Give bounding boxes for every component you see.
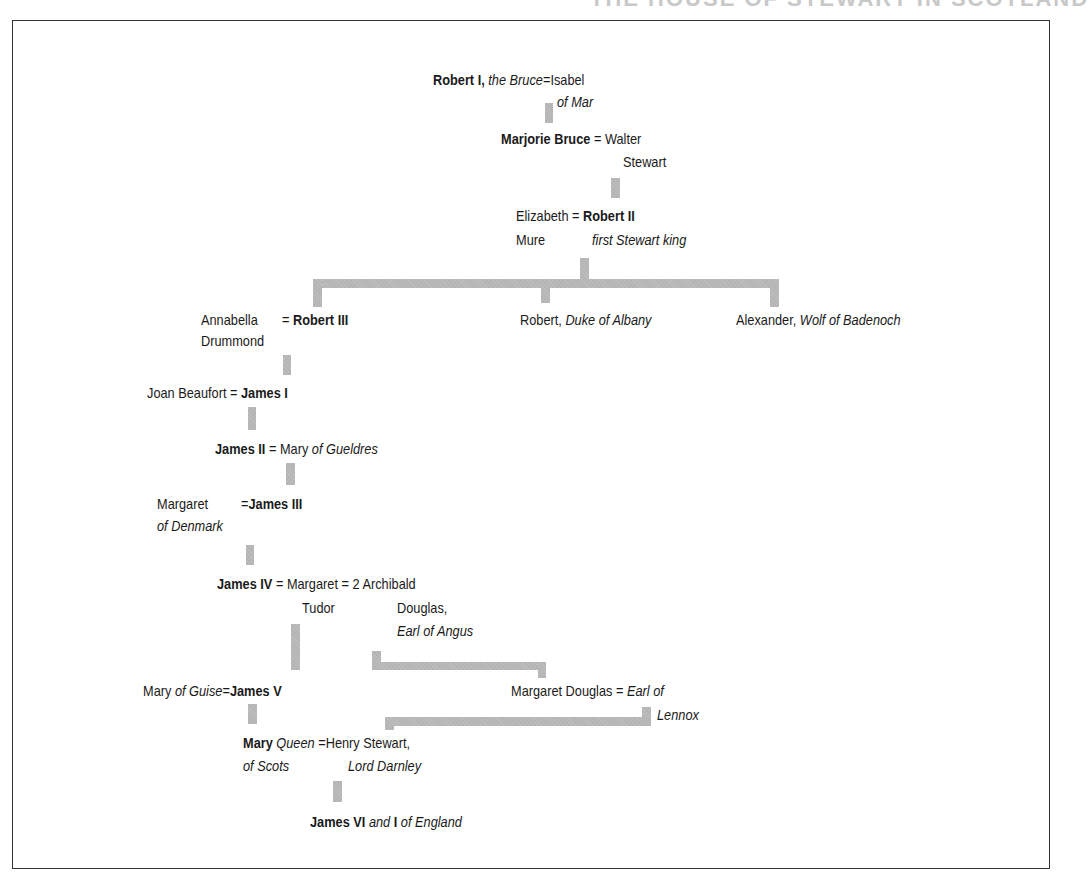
descent-connector [538, 662, 546, 678]
person-james-i: Joan Beaufort = James I [147, 383, 288, 403]
person-margaret-douglas: Margaret Douglas = Earl of [511, 681, 664, 701]
person-mary-queen-of-scots-line2: of Scots [243, 756, 289, 776]
descent-connector [770, 279, 779, 307]
person-elizabeth-mure: Elizabeth = Robert II [516, 206, 635, 226]
descent-connector [283, 355, 291, 375]
descent-connector [385, 717, 394, 730]
descent-connector [333, 781, 342, 802]
person-robert-i: Robert I, the Bruce=Isabel [433, 70, 584, 90]
person-earl-of-lennox: Lennox [657, 705, 699, 725]
person-james-iii: =James III [241, 494, 302, 514]
person-henry-stewart-lord-darnley: Lord Darnley [348, 756, 421, 776]
person-marjorie-bruce: Marjorie Bruce = Walter [501, 129, 641, 149]
person-margaret-tudor: Tudor [302, 598, 335, 618]
descent-connector [611, 178, 620, 198]
person-alexander-wolf-of-badenoch: Alexander, Wolf of Badenoch [736, 310, 901, 330]
person-james-v: Mary of Guise=James V [143, 681, 282, 701]
descent-connector [313, 279, 322, 307]
person-margaret-of-denmark: Margaret [157, 494, 208, 514]
chart-title: THE HOUSE OF STEWART IN SCOTLAND [590, 0, 1089, 12]
descent-connector [248, 704, 257, 724]
descent-connector [248, 407, 256, 430]
person-walter-stewart: Stewart [623, 152, 666, 172]
person-james-iv: James IV = Margaret = 2 Archibald [217, 574, 416, 594]
person-james-vi: James VI and I of England [310, 812, 462, 832]
person-mary-queen-of-scots: Mary Queen =Henry Stewart, [243, 733, 410, 753]
descent-connector [246, 545, 254, 565]
descent-connector [541, 279, 550, 303]
person-robert-duke-of-albany: Robert, Duke of Albany [520, 310, 651, 330]
person-annabella-drummond: Annabella [201, 310, 258, 330]
descent-connector [291, 624, 300, 670]
person-robert-ii-epithet: first Stewart king [592, 230, 686, 250]
descent-connector [385, 717, 651, 726]
descent-connector [372, 662, 546, 670]
descent-connector [286, 463, 295, 485]
descent-connector [545, 103, 553, 123]
person-annabella-drummond-line2: Drummond [201, 331, 264, 351]
person-archibald-douglas: Douglas, [397, 598, 447, 618]
person-archibald-douglas-title: Earl of Angus [397, 621, 473, 641]
person-elizabeth-mure-line2: Mure [516, 230, 545, 250]
person-margaret-of-denmark-line2: of Denmark [157, 516, 223, 536]
person-isabel-of-mar: of Mar [557, 92, 593, 112]
person-james-ii: James II = Mary of Gueldres [215, 439, 378, 459]
person-robert-iii: = Robert III [282, 310, 348, 330]
